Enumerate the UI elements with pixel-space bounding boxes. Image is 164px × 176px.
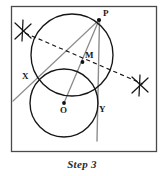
geometry-figure: P M X O Y Step 3 [0, 0, 164, 176]
point-m [81, 60, 85, 64]
construction-diagram [0, 0, 164, 176]
figure-caption: Step 3 [0, 158, 164, 170]
label-point-x: X [22, 72, 29, 81]
point-p [97, 18, 101, 22]
label-point-y: Y [99, 105, 106, 114]
label-point-m: M [85, 51, 94, 60]
label-point-o: O [60, 106, 67, 115]
label-point-p: P [103, 9, 109, 18]
